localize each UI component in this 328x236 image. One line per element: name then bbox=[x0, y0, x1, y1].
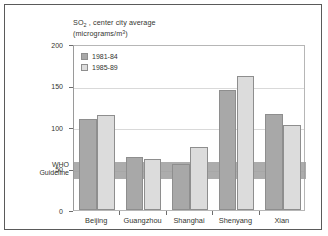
bar-shanghai-1981-84 bbox=[172, 164, 190, 210]
gridline bbox=[74, 88, 304, 89]
x-axis-label-shenyang: Shenyang bbox=[212, 217, 258, 225]
chart-title-rest: , center city average bbox=[87, 18, 156, 27]
x-axis-label-xian: Xian bbox=[259, 217, 305, 225]
x-axis-tick bbox=[212, 211, 213, 215]
legend-item-1981-84[interactable]: 1981-84 bbox=[81, 52, 118, 61]
chart-legend: 1981-841985-89 bbox=[81, 52, 118, 74]
y-axis-tick bbox=[69, 211, 73, 212]
chart-title-species: SO bbox=[73, 18, 84, 27]
bar-shanghai-1985-89 bbox=[190, 147, 208, 210]
x-axis-label-guangzhou: Guangzhou bbox=[119, 217, 165, 225]
bar-shenyang-1981-84 bbox=[219, 90, 237, 210]
legend-label-1981-84: 1981-84 bbox=[92, 53, 118, 60]
bar-guangzhou-1981-84 bbox=[126, 157, 144, 210]
y-axis-tick-label: 0 bbox=[35, 208, 63, 215]
y-axis-tick bbox=[69, 128, 73, 129]
bar-xian-1981-84 bbox=[265, 114, 283, 210]
bar-shenyang-1985-89 bbox=[237, 76, 255, 210]
chart-subtitle-units: (micrograms/m bbox=[73, 29, 122, 38]
chart-subtitle-close: ) bbox=[125, 29, 128, 38]
legend-swatch-1985-89 bbox=[81, 64, 88, 71]
legend-swatch-1981-84 bbox=[81, 53, 88, 60]
y-axis-tick-label: 100 bbox=[35, 125, 63, 132]
who-guideline-label: WHOGuideline bbox=[25, 161, 69, 177]
x-axis-tick bbox=[259, 211, 260, 215]
legend-item-1985-89[interactable]: 1985-89 bbox=[81, 63, 118, 72]
x-axis-tick bbox=[166, 211, 167, 215]
bar-xian-1985-89 bbox=[283, 125, 301, 210]
bar-guangzhou-1985-89 bbox=[144, 159, 162, 210]
who-guideline-label-line1: WHO bbox=[25, 161, 69, 169]
who-guideline-label-line2: Guideline bbox=[25, 169, 69, 177]
y-axis-tick-label: 150 bbox=[35, 83, 63, 90]
y-axis-tick-label: 200 bbox=[35, 42, 63, 49]
x-axis-label-shanghai: Shanghai bbox=[166, 217, 212, 225]
figure-frame: SO2 , center city average (micrograms/m3… bbox=[4, 4, 322, 230]
x-axis-label-beijing: Beijing bbox=[73, 217, 119, 225]
y-axis-tick bbox=[69, 87, 73, 88]
y-axis-tick bbox=[69, 45, 73, 46]
bar-beijing-1981-84 bbox=[79, 119, 97, 210]
chart-subtitle: (micrograms/m3) bbox=[73, 28, 128, 39]
y-axis-tick bbox=[69, 170, 73, 171]
x-axis-tick bbox=[119, 211, 120, 215]
legend-label-1985-89: 1985-89 bbox=[92, 64, 118, 71]
bar-beijing-1985-89 bbox=[97, 115, 115, 210]
